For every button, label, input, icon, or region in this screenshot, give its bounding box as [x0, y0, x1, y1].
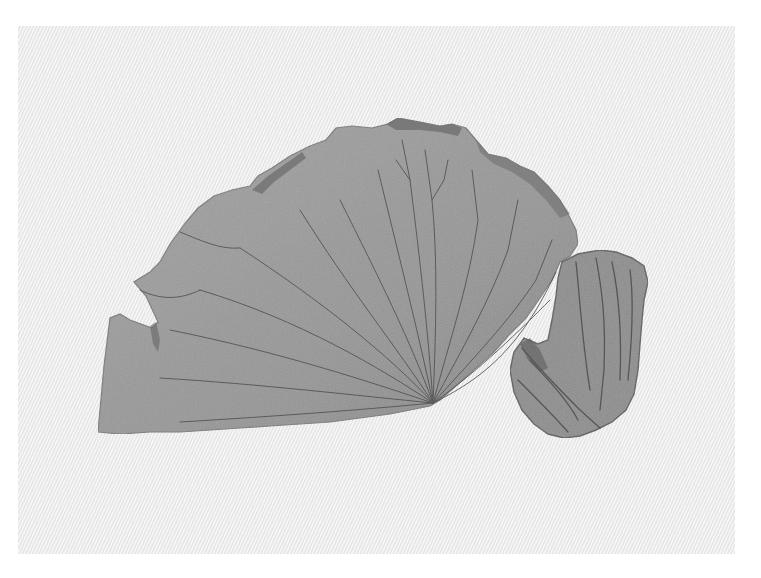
lotus-leaf-photo	[0, 0, 761, 578]
lotus-leaf-fragment	[98, 118, 578, 434]
